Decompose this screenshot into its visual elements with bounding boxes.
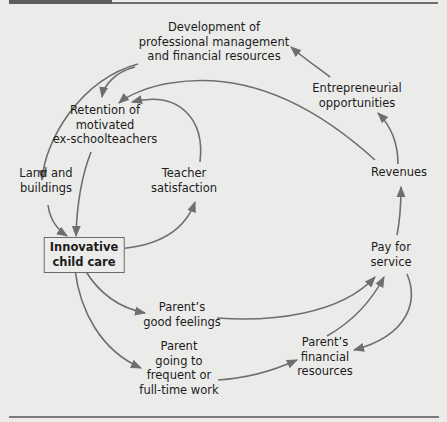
node-text: resources bbox=[297, 364, 353, 379]
node-land-and-buildings: Land and buildings bbox=[19, 166, 72, 195]
arrow-retention-to-childcare bbox=[76, 152, 91, 236]
node-retention: Retention of motivated ex-schoolteachers bbox=[53, 103, 158, 147]
node-text: buildings bbox=[19, 181, 72, 196]
node-text: service bbox=[370, 255, 411, 270]
node-text: opportunities bbox=[312, 96, 401, 111]
node-text: going to bbox=[139, 354, 218, 369]
node-text: frequent or bbox=[139, 368, 218, 383]
node-text: and financial resources bbox=[139, 49, 289, 64]
node-text: Innovative bbox=[50, 240, 119, 255]
node-text: motivated bbox=[53, 118, 158, 133]
node-text: Parent bbox=[139, 339, 218, 354]
arrow-good-feelings-to-pay bbox=[217, 277, 375, 319]
node-teacher-satisfaction: Teacher satisfaction bbox=[151, 166, 217, 195]
node-text: financial bbox=[297, 350, 353, 365]
node-text: Development of bbox=[139, 20, 289, 35]
arrow-pay-to-financial bbox=[354, 274, 411, 350]
node-parents-financial-resources: Parent’s financial resources bbox=[297, 335, 353, 379]
node-text: full-time work bbox=[139, 383, 218, 398]
node-text: professional management bbox=[139, 35, 289, 50]
node-development: Development of professional management a… bbox=[139, 20, 289, 64]
node-revenues: Revenues bbox=[371, 165, 427, 180]
node-parent-going-to-work: Parent going to frequent or full-time wo… bbox=[139, 339, 218, 397]
arrow-pay-to-revenues bbox=[397, 187, 401, 235]
node-parents-good-feelings: Parent’s good feelings bbox=[143, 300, 221, 329]
arrow-land-to-childcare bbox=[48, 205, 67, 236]
arrow-childcare-to-teacher-satisfaction bbox=[117, 202, 195, 249]
node-text: child care bbox=[50, 255, 119, 270]
node-innovative-child-care: Innovative child care bbox=[44, 237, 125, 273]
node-text: Parent’s bbox=[143, 300, 221, 315]
node-text: Entrepreneurial bbox=[312, 81, 401, 96]
node-text: Pay for bbox=[370, 240, 411, 255]
node-text: good feelings bbox=[143, 315, 221, 330]
node-text: Retention of bbox=[53, 103, 158, 118]
node-entrepreneurial-opportunities: Entrepreneurial opportunities bbox=[312, 81, 401, 110]
footer-rule bbox=[9, 416, 439, 418]
node-text: Teacher bbox=[151, 166, 217, 181]
node-pay-for-service: Pay for service bbox=[370, 240, 411, 269]
arrow-revenues-to-entrepreneurial bbox=[378, 113, 398, 164]
arrow-financial-to-pay bbox=[327, 277, 384, 336]
arrow-childcare-to-going-to-work bbox=[75, 270, 141, 368]
node-text: satisfaction bbox=[151, 181, 217, 196]
node-text: Parent’s bbox=[297, 335, 353, 350]
arrow-childcare-to-good-feelings bbox=[85, 270, 145, 313]
node-text: Revenues bbox=[371, 165, 427, 180]
node-text: ex-schoolteachers bbox=[53, 132, 158, 147]
node-text: Land and bbox=[19, 166, 72, 181]
arrow-work-to-financial bbox=[218, 360, 297, 380]
arrow-entrepreneurial-to-development bbox=[291, 47, 330, 77]
